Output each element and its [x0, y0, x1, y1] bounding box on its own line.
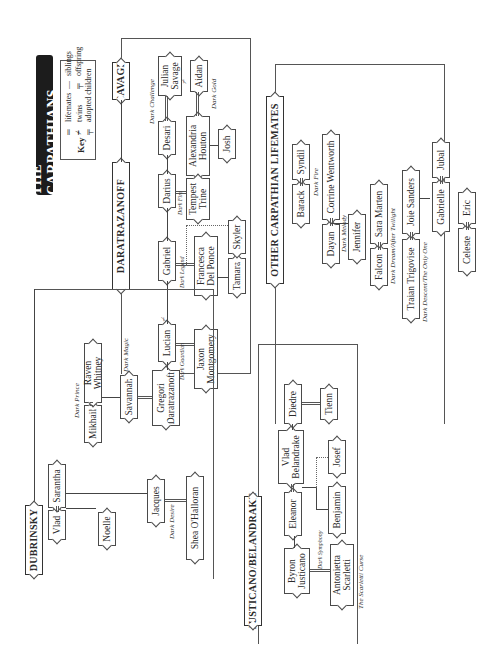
key-item-siblings: — siblings: [64, 51, 73, 89]
book-dark-desire: Dark Desire: [168, 504, 176, 539]
person-gabriel: Gabriel: [158, 241, 176, 281]
person-dayan: Dayan: [322, 224, 340, 264]
book-dark-dream: Dark Dream/After Twilight: [389, 208, 397, 284]
person-celeste: Celeste: [458, 228, 476, 272]
book-dark-prince: Dark Prince: [73, 383, 81, 418]
book-dark-melody: Dark Melody: [340, 215, 348, 252]
person-traian-trigovise: Traian Trigovise: [402, 239, 420, 319]
book-dark-magic: Dark Magic: [122, 338, 130, 372]
person-tamara: Tamara: [228, 258, 246, 294]
person-sara-marten: Sara Marten: [370, 184, 388, 244]
person-francesca-del-ponce: Francesca Del Ponce: [194, 236, 218, 296]
family-other-lifemates: OTHER CARPATHIAN LIFEMATES: [266, 96, 284, 284]
double-line-icon: ═: [64, 125, 73, 135]
person-vlad: Vlad: [48, 510, 66, 540]
person-josh: Josh: [218, 129, 236, 159]
person-vlad-belandrake: Vlad Belandrake: [278, 430, 304, 484]
person-sarantha: Sarantha: [48, 464, 66, 508]
twins-mark: ⌿: [180, 80, 188, 84]
person-julian-savage: Julian Savage: [158, 56, 182, 96]
person-skyler: Skyler: [228, 220, 246, 254]
book-dark-symphony: Dark Symphony: [316, 531, 324, 570]
person-syndil: Syndil: [292, 144, 310, 180]
person-desari: Desari: [158, 121, 176, 155]
person-darius: Darius: [158, 174, 176, 208]
single-line-icon: —: [64, 79, 73, 89]
offspring-icon: ╤: [74, 79, 83, 89]
family-daratrazanoff: DARATRAZANOFF: [112, 162, 130, 290]
person-corrine-wentworth: Corrine Wentworth: [322, 134, 340, 220]
carpathian-family-tree: THE CARPATHIANS Key ═ lifemates ⌿ twins …: [0, 0, 487, 664]
person-gabrielle: Gabrielle: [432, 182, 450, 232]
person-josef: Josef: [328, 440, 346, 474]
person-falcon: Falcon: [370, 248, 388, 286]
person-eleanor: Eleanor: [284, 492, 302, 536]
book-dark-challenge: Dark Challenge: [148, 79, 156, 124]
person-joie-sanders: Joie Sanders: [402, 170, 420, 234]
person-aidan: Aidan: [190, 60, 208, 92]
person-byron-justicano: Byron Justicano: [284, 548, 310, 594]
key-item-adopted: ╤ adopted children: [84, 68, 93, 135]
key-item-offspring: ╤ offspring: [74, 47, 83, 89]
page-title: THE CARPATHIANS: [36, 55, 53, 195]
key-item-twins: ⌿ twins: [74, 105, 84, 135]
person-alexandria-houton: Alexandria Houton: [186, 116, 210, 176]
family-savage: SAVAGE: [112, 62, 130, 100]
person-barack: Barack: [292, 184, 310, 224]
person-noelle: Noelle: [98, 512, 116, 546]
book-dark-legend: Dark Legend: [178, 257, 186, 289]
book-dark-descent: Dark Descent/The Only One: [421, 242, 429, 322]
legend-key: Key ═ lifemates ⌿ twins ╤ adopted childr…: [60, 60, 96, 160]
book-dark-gold: Dark Gold: [210, 79, 218, 109]
person-benjamin: Benjamin: [328, 486, 346, 534]
book-dark-fire: Dark Fire: [176, 191, 184, 215]
family-dubrinsky: DUBRINSKY: [25, 505, 43, 575]
book-scarletti-curse: The Scarletti Curse: [357, 555, 365, 609]
book-dark-fire-barack: Dark Fire: [312, 168, 320, 196]
person-raven-whitney: Raven Whitney: [84, 343, 102, 403]
family-justicano-belandrake: JUSTICANO/BELANDRAKE: [244, 496, 262, 626]
person-jacques: Jacques: [147, 479, 165, 523]
person-tempest-trine: Tempest Trine: [186, 178, 210, 220]
person-jennifer: Jennifer: [348, 214, 366, 260]
key-label: Key: [76, 138, 86, 154]
person-mikhail: Mikhail: [84, 405, 102, 443]
person-eric: Eric: [458, 192, 476, 224]
adopted-icon: ╤: [84, 125, 93, 135]
twins-icon: ⌿: [74, 125, 84, 135]
person-savannah: Savannah: [120, 375, 138, 419]
key-item-lifemates: ═ lifemates: [64, 93, 73, 135]
person-jubal: Jubal: [432, 142, 450, 178]
person-antonietta-scarletti: Antonietta Scarletti: [330, 544, 354, 606]
person-shea-ohalloran: Shea O'Halloran: [186, 476, 204, 560]
